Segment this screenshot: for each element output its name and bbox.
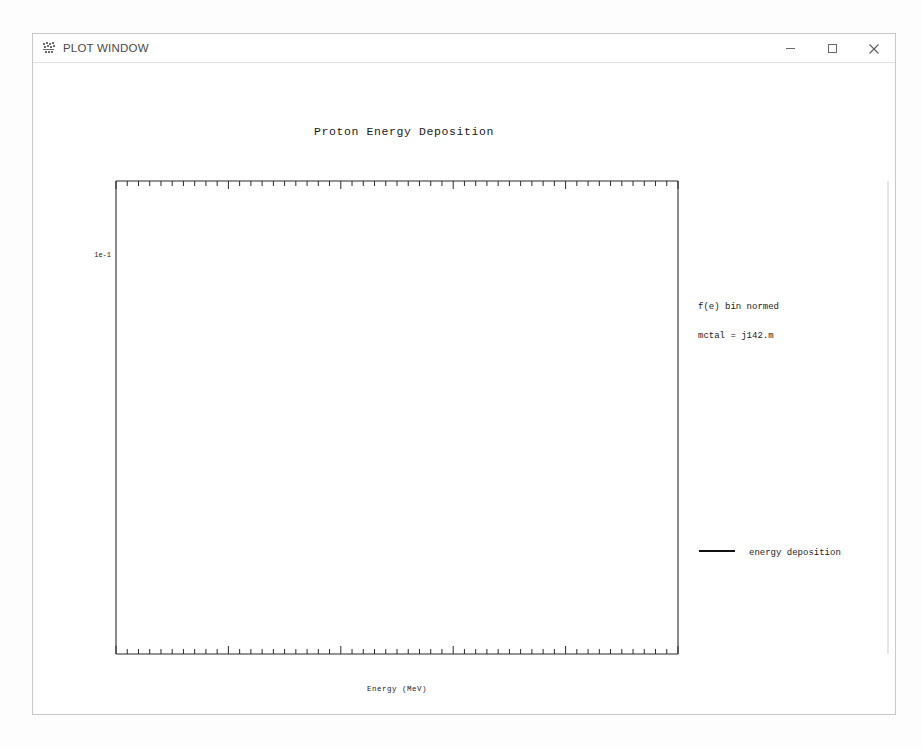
window-titlebar[interactable]: PLOT WINDOW — [33, 34, 895, 63]
screen: PLOT WINDOW — [0, 0, 922, 748]
plot-title: Proton Energy Deposition — [314, 125, 494, 138]
plot-svg: Proton Energy Deposition — [33, 63, 895, 714]
maximize-button[interactable] — [811, 34, 853, 63]
legend-label: energy deposition — [749, 548, 841, 558]
plot-frame — [116, 181, 678, 654]
y-axis-tick-label: 1e-1 — [94, 251, 111, 259]
x-axis-ticks — [116, 181, 678, 654]
window-title: PLOT WINDOW — [63, 42, 149, 54]
plot-surface[interactable]: Proton Energy Deposition — [33, 63, 895, 714]
window-controls — [769, 34, 895, 63]
mctal-filename: mctal = j142.m — [698, 331, 774, 341]
x-axis-label: Energy (MeV) — [367, 685, 427, 693]
minimize-button[interactable] — [769, 34, 811, 63]
mcnp-plot-icon — [42, 41, 56, 55]
plot-window: PLOT WINDOW — [32, 33, 896, 715]
plot-client-area: Proton Energy Deposition — [33, 63, 895, 714]
bin-norm-note: f(e) bin normed — [698, 302, 779, 312]
legend-entry-energy-deposition[interactable]: energy deposition — [699, 548, 841, 558]
close-button[interactable] — [853, 34, 895, 63]
